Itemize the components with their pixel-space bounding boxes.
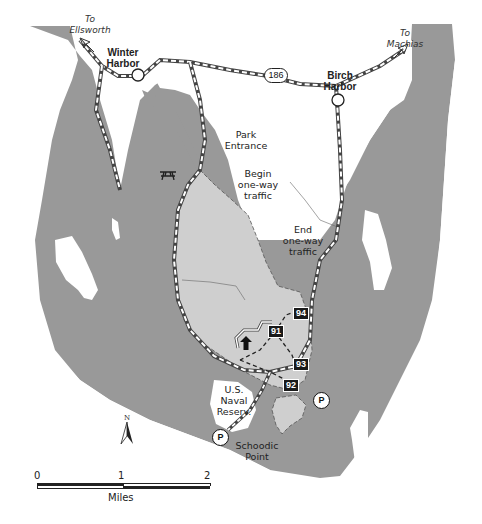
schoodic-point-label: Schoodic Point: [232, 440, 282, 462]
birch-harbor-town-marker: [330, 92, 346, 108]
annotation-line: Point: [232, 451, 282, 462]
hike-marker-91[interactable]: 91: [268, 325, 284, 338]
annotation-line: one-way: [278, 235, 328, 246]
town-name-line: Harbor: [103, 58, 143, 69]
hike-marker-94[interactable]: 94: [293, 307, 309, 320]
town-name-line: Birch: [320, 70, 360, 81]
end-one-way-label: End one-way traffic: [278, 224, 328, 257]
annotation-line: End: [278, 224, 328, 235]
town-name-line: Winter: [103, 47, 143, 58]
scale-tick-1: 1: [118, 470, 124, 481]
direction-line: Machias: [380, 39, 430, 50]
annotation-line: Entrance: [222, 140, 270, 151]
direction-line: Ellsworth: [60, 25, 120, 36]
to-ellsworth-label: To Ellsworth: [60, 14, 120, 36]
annotation-line: U.S.: [214, 384, 254, 395]
north-arrow-icon: [120, 422, 136, 444]
direction-line: To: [380, 28, 430, 39]
scale-tick-0: 0: [34, 470, 40, 481]
arrow-to-ellsworth-icon: [78, 36, 98, 56]
annotation-line: Reserv.: [214, 406, 254, 417]
scale-segment-dark: [123, 486, 210, 489]
scale-tick-2: 2: [204, 470, 210, 481]
annotation-line: traffic: [278, 246, 328, 257]
north-arrow: N: [120, 414, 140, 444]
annotation-line: Park: [222, 129, 270, 140]
winter-harbor-label: Winter Harbor: [103, 47, 143, 69]
scale-segment-light: [37, 486, 125, 489]
hike-marker-92[interactable]: 92: [283, 379, 299, 392]
annotation-line: Begin: [232, 168, 284, 179]
annotation-line: traffic: [232, 190, 284, 201]
north-label: N: [120, 414, 134, 422]
to-machias-label: To Machias: [380, 28, 430, 50]
parking-icon[interactable]: P: [313, 392, 330, 409]
annotation-line: Schoodic: [232, 440, 282, 451]
picnic-area-icon: [160, 170, 176, 180]
annotation-line: Naval: [214, 395, 254, 406]
birch-harbor-label: Birch Harbor: [320, 70, 360, 92]
scale-unit-label: Miles: [108, 492, 134, 503]
winter-harbor-town-marker: [130, 67, 146, 83]
town-name-line: Harbor: [320, 81, 360, 92]
annotation-line: one-way: [232, 179, 284, 190]
parking-icon[interactable]: P: [212, 429, 229, 446]
hike-marker-93[interactable]: 93: [293, 358, 309, 371]
trailhead-arrow-icon: [240, 336, 252, 350]
route-186-shield: 186: [264, 68, 288, 83]
begin-one-way-label: Begin one-way traffic: [232, 168, 284, 201]
scale-bar: 0 1 2 Miles: [34, 470, 214, 510]
direction-line: To: [60, 14, 120, 25]
island-northwest: [30, 182, 40, 196]
park-entrance-label: Park Entrance: [222, 129, 270, 151]
naval-reserve-label: U.S. Naval Reserv.: [214, 384, 254, 417]
